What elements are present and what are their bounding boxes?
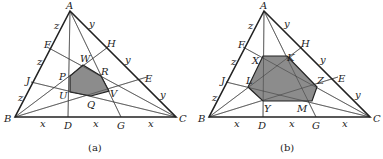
point-label: y <box>354 89 361 100</box>
point-label: C <box>179 113 187 124</box>
point-label: V <box>110 88 119 99</box>
point-label: B <box>197 113 205 124</box>
point-label: X <box>251 55 260 66</box>
point-label: y <box>319 54 326 65</box>
point-label: z <box>230 56 237 67</box>
point-label: Q <box>87 99 95 110</box>
figure-b: ABCDGFJHEXKZMYLzzzyyyxxx(b) <box>197 0 381 153</box>
point-label: y <box>88 18 95 29</box>
point-label: x <box>93 118 99 129</box>
point-label: z <box>36 56 43 67</box>
point-label: L <box>245 75 253 86</box>
point-label: z <box>211 92 218 103</box>
point-label: x <box>289 118 295 129</box>
point-label: H <box>106 38 116 49</box>
point-label: E <box>144 73 153 84</box>
point-label: G <box>117 120 125 131</box>
point-label: x <box>148 118 154 129</box>
point-label: J <box>219 75 226 86</box>
point-label: K <box>286 52 295 63</box>
cevian-overlay <box>47 47 176 117</box>
point-label: E <box>337 73 346 84</box>
point-label: y <box>159 89 166 100</box>
point-label: C <box>373 113 381 124</box>
figure-caption: (a) <box>88 142 102 153</box>
point-label: W <box>80 53 91 64</box>
point-label: Z <box>316 75 325 86</box>
point-label: x <box>342 118 348 129</box>
point-label: H <box>300 38 310 49</box>
point-label: B <box>3 113 11 124</box>
figure-a: ABCDGFJHEWRVQUPzzzyyyxxx(a) <box>3 0 187 153</box>
point-label: x <box>40 118 46 129</box>
point-label: x <box>234 118 240 129</box>
point-label: M <box>296 103 308 114</box>
point-label: z <box>247 20 254 31</box>
point-label: y <box>124 54 131 65</box>
point-label: D <box>257 120 266 131</box>
point-label: A <box>65 0 73 11</box>
point-label: Y <box>264 103 272 114</box>
point-label: D <box>63 120 72 131</box>
figure-caption: (b) <box>280 142 294 153</box>
point-label: R <box>100 66 109 77</box>
point-label: y <box>283 18 290 29</box>
point-label: A <box>259 0 267 11</box>
point-label: G <box>312 120 320 131</box>
point-label: F <box>43 39 52 50</box>
point-label: P <box>58 71 66 82</box>
point-label: U <box>59 90 68 101</box>
point-label: F <box>237 39 246 50</box>
point-label: z <box>53 20 60 31</box>
point-label: z <box>17 92 24 103</box>
point-label: J <box>24 75 31 86</box>
triangle-diagrams: ABCDGFJHEWRVQUPzzzyyyxxx(a) ABCDGFJHEXKZ… <box>0 0 383 159</box>
